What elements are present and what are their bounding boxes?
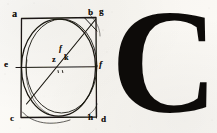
figure-drawing <box>0 0 112 133</box>
figure-label-e: e <box>4 60 8 69</box>
figure-label-g: g <box>99 7 104 16</box>
figure-label-f-center: f <box>59 45 62 53</box>
figure-label-b: b <box>88 8 93 17</box>
figure-label-d: d <box>101 115 106 124</box>
figure-label-k: k <box>64 54 68 62</box>
scanned-page: a b g e f z k f c h d C <box>0 0 217 133</box>
drop-cap-panel: C <box>112 0 217 133</box>
figure-label-z: z <box>52 56 56 64</box>
capital-c-text: C <box>112 0 217 133</box>
capital-c-glyph: C <box>112 0 217 133</box>
figure-label-f-right: f <box>99 60 102 69</box>
secondary-offset-circle <box>26 19 97 113</box>
figure-label-a: a <box>12 9 17 19</box>
geometric-figure: a b g e f z k f c h d <box>0 0 112 133</box>
figure-label-c: c <box>10 114 14 123</box>
figure-label-h: h <box>88 113 93 122</box>
